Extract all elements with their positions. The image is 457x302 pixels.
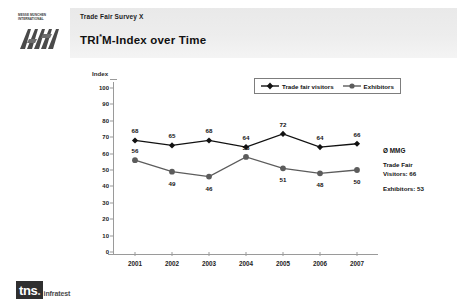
data-point-marker[interactable]	[132, 137, 138, 143]
x-axis-tick-label: 2007	[350, 260, 364, 267]
series-line	[135, 157, 357, 177]
page-title-rest: M-Index over Time	[102, 34, 206, 46]
data-point-label: 58	[243, 143, 250, 150]
page-title-main: TRI	[80, 34, 99, 46]
x-axis-tick-label: 2005	[276, 260, 290, 267]
data-point-marker[interactable]	[280, 131, 286, 137]
tns-dot-icon: .	[37, 283, 40, 298]
x-axis-tick-mark	[357, 252, 358, 256]
x-axis-tick-label: 2004	[239, 260, 253, 267]
data-point-marker[interactable]	[132, 157, 138, 163]
data-point-marker[interactable]	[169, 142, 175, 148]
data-point-label: 64	[317, 134, 324, 141]
data-point-marker[interactable]	[206, 174, 212, 180]
messe-muenchen-m-mark-icon	[18, 25, 64, 51]
legend-marker-diamond-icon	[261, 82, 279, 90]
tns-mark: tns.	[16, 281, 43, 299]
y-axis-tick-label: 0	[106, 249, 109, 255]
logo-line-2: INTERNATIONAL	[18, 18, 64, 22]
data-point-label: 49	[169, 179, 176, 186]
y-axis-tick-label: 20	[102, 216, 109, 222]
header-subtitle: Trade Fair Survey X	[80, 13, 144, 20]
data-point-marker[interactable]	[243, 154, 249, 160]
legend-item-trade-fair-visitors[interactable]: Trade fair visitors	[261, 82, 334, 90]
y-axis-tick-label: 60	[102, 151, 109, 157]
legend-label: Trade fair visitors	[282, 83, 334, 90]
infratest-text: infratest	[44, 290, 71, 299]
y-axis-tick-label: 50	[102, 167, 109, 173]
y-axis-tick-label: 10	[102, 233, 109, 239]
legend-item-exhibitors[interactable]: Exhibitors	[343, 82, 394, 90]
data-point-marker[interactable]	[317, 144, 323, 150]
x-axis-tick-label: 2006	[313, 260, 327, 267]
note-exhibitors: Exhibitors: 53	[383, 185, 455, 194]
legend-label: Exhibitors	[364, 83, 394, 90]
x-axis-line	[108, 254, 378, 255]
chart-legend: Trade fair visitors Exhibitors	[254, 78, 401, 94]
data-point-label: 66	[354, 130, 361, 137]
x-axis-tick-mark	[172, 252, 173, 256]
data-point-label: 50	[354, 178, 361, 185]
x-axis-tick-mark	[135, 252, 136, 256]
data-point-marker[interactable]	[206, 137, 212, 143]
series-canvas	[113, 88, 375, 252]
y-axis-title: Index	[92, 70, 108, 77]
messe-muenchen-logo: MESSE MÜNCHEN INTERNATIONAL	[18, 14, 64, 54]
data-point-label: 64	[243, 134, 250, 141]
data-point-marker[interactable]	[169, 169, 175, 175]
x-axis-tick-mark	[209, 252, 210, 256]
data-point-label: 51	[280, 176, 287, 183]
y-axis-tick-label: 90	[102, 101, 109, 107]
tns-infratest-logo: tns. infratest	[16, 281, 70, 299]
data-point-label: 46	[206, 184, 213, 191]
data-point-label: 65	[169, 132, 176, 139]
page-title: TRI*M-Index over Time	[80, 33, 206, 46]
data-point-label: 68	[132, 127, 139, 134]
tns-mark-text: tns	[19, 283, 37, 298]
data-point-label: 56	[132, 147, 139, 154]
data-point-marker[interactable]	[280, 165, 286, 171]
x-axis-tick-label: 2001	[128, 260, 142, 267]
data-point-marker[interactable]	[354, 167, 360, 173]
x-axis-tick-mark	[246, 252, 247, 256]
note-trade-fair-visitors: Trade Fair Visitors: 66	[383, 161, 455, 179]
average-note: Ø MMG Trade Fair Visitors: 66 Exhibitors…	[383, 147, 455, 200]
data-point-label: 68	[206, 127, 213, 134]
data-point-label: 48	[317, 181, 324, 188]
y-axis-tick-label: 80	[102, 118, 109, 124]
x-axis-tick-mark	[283, 252, 284, 256]
data-point-marker[interactable]	[317, 170, 323, 176]
plot-area: 0102030405060708090100 20012002200320042…	[113, 88, 375, 252]
y-axis-tick-label: 30	[102, 200, 109, 206]
x-axis-tick-label: 2002	[165, 260, 179, 267]
note-heading: Ø MMG	[383, 147, 455, 154]
y-axis-cap	[110, 79, 117, 80]
data-point-marker[interactable]	[354, 141, 360, 147]
y-axis-tick-label: 100	[99, 85, 109, 91]
data-point-label: 72	[280, 120, 287, 127]
legend-marker-circle-icon	[343, 82, 361, 90]
x-axis-tick-mark	[320, 252, 321, 256]
y-axis-tick-label: 40	[102, 183, 109, 189]
x-axis-tick-label: 2003	[202, 260, 216, 267]
y-axis-tick-label: 70	[102, 134, 109, 140]
